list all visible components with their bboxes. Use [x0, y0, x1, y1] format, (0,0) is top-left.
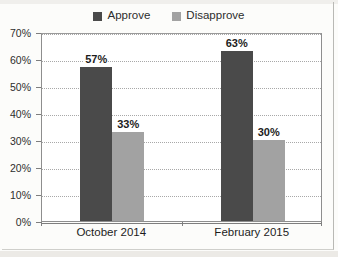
x-tick-mark-2	[321, 222, 322, 226]
bar-disapprove-1[interactable]	[253, 140, 285, 221]
y-tick-label-50: 50%	[10, 81, 31, 93]
gridline-70	[42, 34, 321, 35]
bar-value-label-approve-0: 57%	[84, 53, 108, 65]
x-tick-mark-1	[182, 222, 183, 226]
y-tick-label-70: 70%	[10, 27, 31, 39]
bar-value-label-approve-1: 63%	[225, 37, 249, 49]
legend-item-approve[interactable]: Approve	[93, 10, 150, 22]
legend-item-disapprove[interactable]: Disapprove	[172, 10, 244, 22]
y-axis: 70%60%50%40%30%20%10%0%	[0, 33, 36, 222]
y-tick-label-40: 40%	[10, 108, 31, 120]
chart-legend: Approve Disapprove	[0, 6, 338, 26]
y-tick-label-0: 0%	[16, 216, 31, 228]
x-tick-label-0: October 2014	[76, 226, 146, 238]
y-tick-label-60: 60%	[10, 54, 31, 66]
legend-swatch-approve-icon	[93, 12, 102, 21]
bar-value-label-disapprove-0: 33%	[116, 118, 140, 130]
bar-approve-1[interactable]	[221, 51, 253, 221]
scan-edge-bottom	[0, 251, 338, 257]
y-tick-label-30: 30%	[10, 135, 31, 147]
x-axis: October 2014February 2015	[41, 226, 322, 248]
legend-swatch-disapprove-icon	[172, 12, 181, 21]
legend-label-disapprove: Disapprove	[186, 10, 244, 22]
y-tick-label-10: 10%	[10, 189, 31, 201]
approval-rating-bar-chart: Approve Disapprove 70%60%50%40%30%20%10%…	[0, 0, 338, 257]
y-tick-label-20: 20%	[10, 162, 31, 174]
bar-disapprove-0[interactable]	[112, 132, 144, 221]
legend-label-approve: Approve	[107, 10, 150, 22]
x-tick-mark-0	[41, 222, 42, 226]
bar-approve-0[interactable]	[80, 67, 112, 221]
scan-edge-top	[0, 0, 338, 4]
bar-value-label-disapprove-1: 30%	[257, 126, 281, 138]
x-tick-label-1: February 2015	[214, 226, 289, 238]
plot-area: 57%33%63%30%	[41, 33, 322, 222]
